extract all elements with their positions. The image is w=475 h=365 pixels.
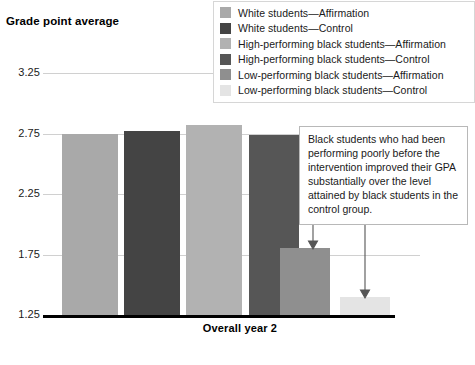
bar — [62, 134, 118, 315]
legend-swatch-icon — [220, 23, 231, 34]
legend-item: High-performing black students—Control — [214, 52, 474, 68]
legend-swatch-icon — [220, 38, 231, 49]
legend-item: White students—Affirmation — [214, 5, 474, 21]
y-tick-label: 1.75 — [0, 248, 40, 260]
bar — [124, 131, 180, 315]
y-tick-label: 2.75 — [0, 127, 40, 139]
bar — [186, 125, 242, 315]
legend-item-label: White students—Affirmation — [238, 7, 369, 19]
y-tick-label: 1.25 — [0, 308, 40, 320]
chart-legend: White students—AffirmationWhite students… — [213, 1, 475, 103]
x-axis-label: Overall year 2 — [150, 322, 330, 334]
x-axis-baseline — [43, 315, 395, 318]
legend-swatch-icon — [220, 54, 231, 65]
y-tick-label: 3.25 — [0, 66, 40, 78]
legend-item: High-performing black students—Affirmati… — [214, 36, 474, 52]
annotation-callout: Black students who had been performing p… — [299, 126, 468, 225]
bar — [340, 297, 390, 315]
legend-item: Low-performing black students—Affirmatio… — [214, 67, 474, 83]
legend-swatch-icon — [220, 69, 231, 80]
legend-item-label: High-performing black students—Control — [238, 53, 430, 65]
legend-swatch-icon — [220, 7, 231, 18]
legend-item-label: Low-performing black students—Control — [238, 84, 427, 96]
legend-item-label: Low-performing black students—Affirmatio… — [238, 69, 444, 81]
legend-item: Low-performing black students—Control — [214, 83, 474, 99]
legend-swatch-icon — [220, 85, 231, 96]
legend-item-label: White students—Control — [238, 22, 353, 34]
legend-item: White students—Control — [214, 21, 474, 37]
y-tick-label: 2.25 — [0, 187, 40, 199]
bar — [280, 248, 330, 315]
legend-item-label: High-performing black students—Affirmati… — [238, 38, 446, 50]
gpa-bar-chart: Grade point average 1.251.752.252.753.25… — [0, 0, 475, 365]
